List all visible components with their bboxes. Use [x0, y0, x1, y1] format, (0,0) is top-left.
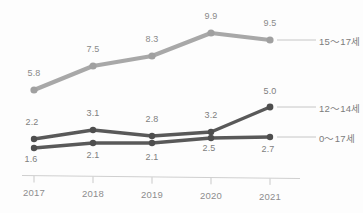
x-tick-label-2019: 2019 — [141, 189, 163, 200]
value-label-0-17-2020: 2.5 — [203, 143, 216, 153]
value-label-0-17-2017: 1.6 — [25, 154, 38, 164]
value-label-0-17-2018: 2.1 — [87, 150, 100, 160]
legend-item-0-17: 0～17세 — [319, 131, 355, 145]
value-label-15-17-2021: 9.5 — [264, 18, 277, 28]
legend-item-12-14: 12～14세 — [319, 101, 360, 115]
legend-item-15-17: 15～17세 — [319, 34, 360, 48]
value-label-15-17-2017: 5.8 — [28, 68, 41, 78]
x-tick-label-2017: 2017 — [23, 187, 45, 198]
value-label-12-14-2018: 3.1 — [87, 108, 100, 118]
x-axis-line — [22, 176, 300, 179]
chart-plot-area — [0, 0, 363, 213]
value-label-12-14-2021: 5.0 — [264, 86, 277, 96]
value-label-15-17-2020: 9.9 — [205, 11, 218, 21]
value-label-12-14-2017: 2.2 — [26, 117, 39, 127]
value-label-12-14-2020: 3.2 — [205, 110, 218, 120]
value-label-0-17-2019: 2.1 — [146, 152, 159, 162]
value-label-0-17-2021: 2.7 — [262, 144, 275, 154]
line-chart: 5.8 7.5 8.3 9.9 9.5 2.2 3.1 2.8 3.2 5.0 … — [0, 0, 363, 213]
x-tick-label-2021: 2021 — [259, 191, 281, 202]
value-label-15-17-2018: 7.5 — [87, 44, 100, 54]
x-tick-label-2018: 2018 — [82, 188, 104, 199]
value-label-15-17-2019: 8.3 — [146, 34, 159, 44]
x-tick-label-2020: 2020 — [200, 190, 222, 201]
value-label-12-14-2019: 2.8 — [146, 114, 159, 124]
legend-leader-lines — [277, 40, 316, 137]
